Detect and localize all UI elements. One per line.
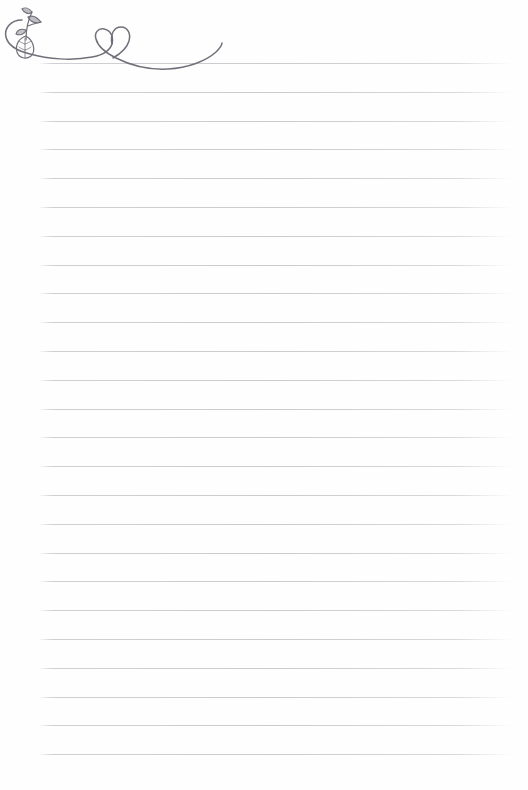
rule-line bbox=[38, 668, 512, 669]
rule-line bbox=[38, 293, 512, 294]
rule-line bbox=[38, 466, 512, 467]
rule-line bbox=[38, 63, 512, 64]
rule-line bbox=[38, 409, 512, 410]
rule-line bbox=[38, 92, 512, 93]
rule-line bbox=[38, 581, 512, 582]
rule-line bbox=[38, 178, 512, 179]
ruled-lines-group bbox=[0, 0, 528, 790]
rule-line bbox=[38, 207, 512, 208]
rule-line bbox=[38, 495, 512, 496]
rule-line bbox=[38, 754, 512, 755]
rule-line bbox=[38, 639, 512, 640]
rule-line bbox=[38, 553, 512, 554]
rule-line bbox=[38, 380, 512, 381]
rule-line bbox=[38, 437, 512, 438]
rule-line bbox=[38, 524, 512, 525]
rule-line bbox=[38, 236, 512, 237]
rule-line bbox=[38, 351, 512, 352]
rule-line bbox=[38, 725, 512, 726]
rule-line bbox=[38, 697, 512, 698]
rule-line bbox=[38, 265, 512, 266]
notebook-page bbox=[0, 0, 528, 790]
rule-line bbox=[38, 610, 512, 611]
rule-line bbox=[38, 322, 512, 323]
rule-line bbox=[38, 149, 512, 150]
rule-line bbox=[38, 121, 512, 122]
